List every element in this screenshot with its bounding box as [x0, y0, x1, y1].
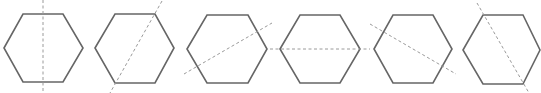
hexagon-group-3	[184, 15, 272, 83]
hexagon-6	[463, 15, 540, 84]
hexagon-group-1	[4, 0, 83, 93]
hexagon-group-2	[95, 1, 174, 93]
hexagon-group-4	[270, 15, 370, 83]
hexagon-2	[95, 14, 174, 83]
symmetry-diagram	[0, 0, 541, 93]
hexagon-group-6	[463, 3, 540, 93]
symmetry-line-6	[477, 3, 529, 93]
hexagon-group-5	[370, 15, 456, 83]
